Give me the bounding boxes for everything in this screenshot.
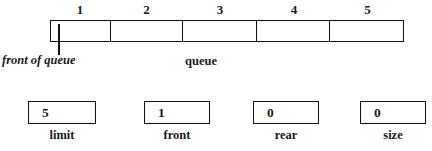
variable-label-limit: limit [28, 127, 96, 143]
queue-index-row: 1 2 3 4 5 [50, 1, 404, 19]
queue-diagram: 1 2 3 4 5 front of queue queue 5 limit 1… [0, 0, 432, 151]
variable-label-rear: rear [253, 127, 319, 143]
queue-cell-3 [183, 21, 257, 41]
queue-index-label-1: 1 [50, 1, 110, 19]
variable-value-rear: 0 [254, 102, 274, 123]
variable-label-front: front [144, 127, 210, 143]
front-of-queue-pointer-icon [58, 24, 60, 55]
queue-cell-4 [257, 21, 331, 41]
front-of-queue-label: front of queue [2, 53, 76, 68]
queue-cell-1 [51, 21, 111, 41]
queue-index-label-3: 3 [183, 1, 257, 19]
variable-box-rear: 0 [253, 101, 319, 124]
queue-caption: queue [185, 54, 217, 69]
queue-cell-2 [111, 21, 184, 41]
queue-array-wrapper [50, 20, 404, 42]
variable-value-limit: 5 [29, 102, 49, 123]
variable-value-size: 0 [361, 102, 381, 123]
variable-box-limit: 5 [28, 101, 96, 124]
variable-label-size: size [360, 127, 426, 143]
queue-index-label-4: 4 [257, 1, 331, 19]
queue-index-label-2: 2 [110, 1, 183, 19]
queue-array [50, 20, 404, 42]
variable-box-size: 0 [360, 101, 426, 124]
variable-box-front: 1 [144, 101, 210, 124]
variable-value-front: 1 [145, 102, 165, 123]
queue-cell-5 [330, 21, 403, 41]
queue-index-label-5: 5 [331, 1, 404, 19]
